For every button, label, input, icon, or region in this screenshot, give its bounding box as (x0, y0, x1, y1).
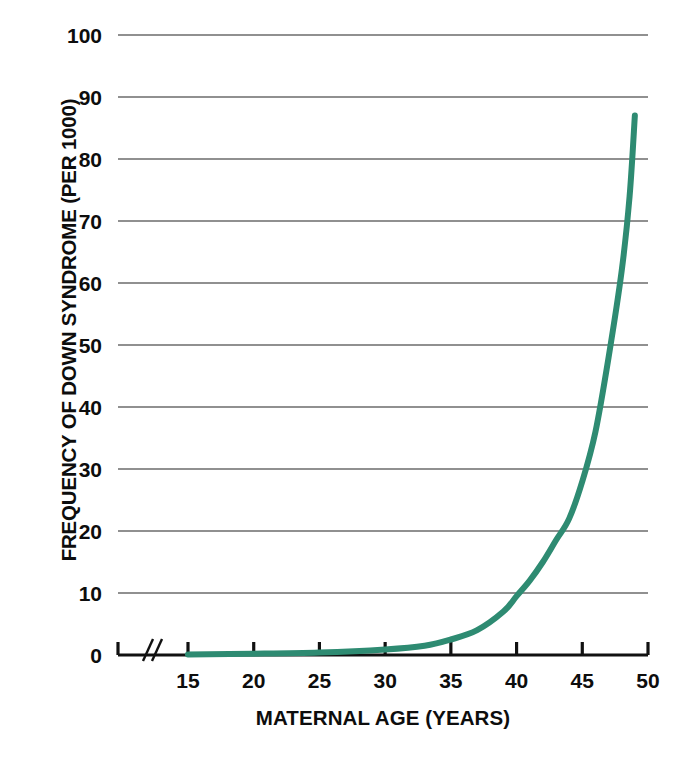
x-tick-label: 15 (176, 670, 199, 691)
x-tick-label: 40 (505, 670, 528, 691)
chart-figure: FREQUENCY OF DOWN SYNDROME (PER 1000) 01… (0, 0, 679, 758)
x-axis-title: MATERNAL AGE (YEARS) (118, 706, 648, 730)
x-axis-tick-labels: 1520253035404550 (0, 0, 679, 758)
x-tick-label: 30 (373, 670, 396, 691)
x-tick-label: 50 (636, 670, 659, 691)
x-tick-label: 35 (439, 670, 462, 691)
x-tick-label: 25 (308, 670, 331, 691)
x-tick-label: 45 (571, 670, 594, 691)
x-tick-label: 20 (242, 670, 265, 691)
